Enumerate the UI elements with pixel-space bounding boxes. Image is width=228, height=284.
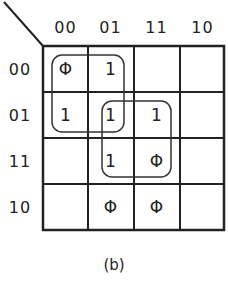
column-header: 10 bbox=[180, 18, 225, 37]
kmap-cell: Φ bbox=[134, 138, 179, 184]
kmap-cell bbox=[43, 184, 88, 230]
figure-caption: (b) bbox=[0, 256, 228, 274]
column-header: 00 bbox=[43, 18, 88, 37]
kmap-cell bbox=[134, 46, 179, 92]
kmap-cell: 1 bbox=[88, 138, 133, 184]
kmap-cell bbox=[43, 138, 88, 184]
column-header: 01 bbox=[88, 18, 133, 37]
kmap-cell: Φ bbox=[88, 184, 133, 230]
kmap-cell: 1 bbox=[43, 92, 88, 138]
kmap-cell bbox=[180, 46, 225, 92]
kmap-cell bbox=[180, 92, 225, 138]
kmap-cell: Φ bbox=[134, 184, 179, 230]
kmap-cell bbox=[180, 138, 225, 184]
column-header: 11 bbox=[134, 18, 179, 37]
kmap-cell: Φ bbox=[43, 46, 88, 92]
kmap-cell: 1 bbox=[88, 46, 133, 92]
kmap-cell bbox=[180, 184, 225, 230]
corner-diagonal bbox=[4, 2, 43, 46]
row-header: 01 bbox=[4, 106, 36, 125]
row-header: 11 bbox=[4, 152, 36, 171]
row-header: 00 bbox=[4, 60, 36, 79]
kmap-cell: 1 bbox=[134, 92, 179, 138]
kmap-cell: 1 bbox=[88, 92, 133, 138]
row-header: 10 bbox=[4, 198, 36, 217]
